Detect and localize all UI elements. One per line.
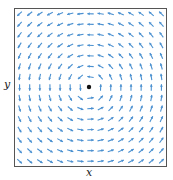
arrowhead-icon	[87, 65, 89, 68]
arrowhead-icon	[87, 23, 89, 26]
arrowhead-icon	[49, 88, 52, 90]
arrowhead-icon	[18, 88, 21, 90]
center-point	[87, 85, 91, 89]
arrowhead-icon	[91, 160, 93, 163]
arrowhead-icon	[81, 160, 84, 163]
arrowhead-icon	[77, 12, 80, 15]
arrowhead-icon	[91, 128, 93, 131]
arrowhead-icon	[130, 84, 133, 86]
arrowhead-icon	[91, 139, 93, 142]
arrowhead-icon	[160, 84, 163, 86]
x-axis-label: x	[86, 166, 92, 179]
arrowhead-icon	[87, 54, 89, 57]
arrowhead-icon	[150, 84, 153, 86]
arrowhead-icon	[99, 84, 102, 86]
arrowhead-icon	[79, 88, 82, 90]
arrowhead-icon	[38, 88, 41, 90]
arrowhead-icon	[59, 88, 62, 90]
arrowhead-icon	[140, 84, 143, 86]
arrowhead-icon	[69, 88, 72, 90]
y-axis-label: y	[4, 78, 10, 91]
arrowhead-icon	[120, 84, 123, 86]
arrowhead-icon	[91, 107, 93, 110]
arrowhead-icon	[28, 88, 31, 90]
arrowhead-icon	[91, 118, 93, 121]
arrowhead-icon	[87, 44, 89, 47]
arrowhead-icon	[109, 84, 112, 86]
arrowhead-icon	[91, 149, 93, 152]
arrowhead-icon	[87, 33, 89, 36]
arrowhead-icon	[87, 12, 89, 15]
vector-field-plot	[0, 0, 173, 180]
